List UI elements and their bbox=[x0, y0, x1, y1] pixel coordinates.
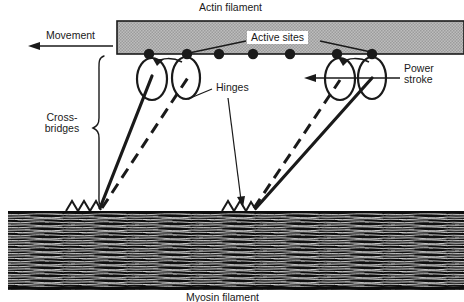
label-myosin-filament: Myosin filament bbox=[186, 292, 259, 302]
crossbridge-right-stem-dashed bbox=[254, 80, 340, 208]
label-power-stroke-line2: stroke bbox=[404, 74, 434, 85]
label-movement: Movement bbox=[46, 30, 95, 41]
active-site-dot bbox=[214, 49, 224, 59]
label-actin-filament: Actin filament bbox=[199, 2, 262, 13]
crossbridge-right bbox=[254, 57, 386, 208]
active-site-dot bbox=[248, 49, 258, 59]
crossbridges-brace bbox=[93, 56, 104, 207]
label-hinges: Hinges bbox=[216, 82, 249, 93]
hinges-leader-lines bbox=[188, 89, 245, 207]
anchor-zigzag-right bbox=[222, 201, 256, 211]
diagram-canvas bbox=[0, 0, 464, 302]
myosin-head bbox=[325, 58, 355, 100]
anchor-zigzag-left bbox=[66, 201, 101, 211]
label-crossbridges: Cross- bridges bbox=[34, 112, 90, 135]
label-power-stroke: Power stroke bbox=[404, 63, 434, 86]
myosin-filament-band bbox=[8, 211, 464, 290]
crossbridge-right-stem-solid bbox=[256, 78, 372, 208]
active-site-dot bbox=[285, 49, 295, 59]
crossbridge-left bbox=[100, 57, 200, 208]
muscle-contraction-diagram: Actin filament Movement Active sites Hin… bbox=[0, 0, 464, 302]
label-active-sites: Active sites bbox=[247, 31, 308, 44]
label-crossbridges-line2: bridges bbox=[34, 123, 90, 134]
movement-arrow bbox=[28, 42, 113, 50]
